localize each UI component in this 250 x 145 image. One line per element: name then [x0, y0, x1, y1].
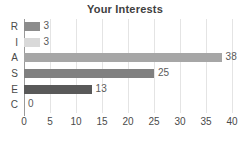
x-tick-40: 40	[226, 116, 237, 127]
bar-e	[24, 85, 92, 94]
y-axis-label-e: E	[11, 82, 18, 98]
x-tick-10: 10	[70, 116, 81, 127]
x-tick-15: 15	[96, 116, 107, 127]
y-axis-label-i: I	[15, 35, 18, 51]
y-axis-label-c: C	[11, 97, 18, 113]
bar-series: 333825130	[24, 19, 232, 113]
bar-value-label: 3	[44, 20, 50, 31]
bar-value-label: 0	[28, 98, 34, 109]
bar-i	[24, 38, 40, 47]
bar-row: 0	[24, 97, 232, 113]
bar-a	[24, 53, 222, 62]
gridline	[232, 19, 233, 113]
y-axis-label-r: R	[11, 19, 18, 35]
x-tick-30: 30	[174, 116, 185, 127]
bar-value-label: 3	[44, 36, 50, 47]
bar-row: 38	[24, 50, 232, 66]
plot-area: 333825130	[24, 19, 232, 113]
y-axis-category-labels: RIASEC	[0, 19, 22, 113]
chart-container: Your Interests RIASEC 333825130 05101520…	[0, 0, 250, 145]
chart-title: Your Interests	[0, 3, 250, 15]
y-axis-label-a: A	[11, 50, 18, 66]
x-tick-25: 25	[148, 116, 159, 127]
bar-row: 25	[24, 66, 232, 82]
x-tick-0: 0	[21, 116, 27, 127]
bar-value-label: 13	[96, 83, 107, 94]
x-tick-5: 5	[47, 116, 53, 127]
bar-s	[24, 69, 154, 78]
bar-row: 3	[24, 35, 232, 51]
bar-row: 3	[24, 19, 232, 35]
x-axis-tick-labels: 0510152025303540	[0, 116, 250, 130]
bar-value-label: 25	[158, 67, 169, 78]
bar-row: 13	[24, 82, 232, 98]
x-tick-35: 35	[200, 116, 211, 127]
bar-value-label: 38	[226, 51, 237, 62]
bar-r	[24, 22, 40, 31]
y-axis-label-s: S	[11, 66, 18, 82]
x-tick-20: 20	[122, 116, 133, 127]
